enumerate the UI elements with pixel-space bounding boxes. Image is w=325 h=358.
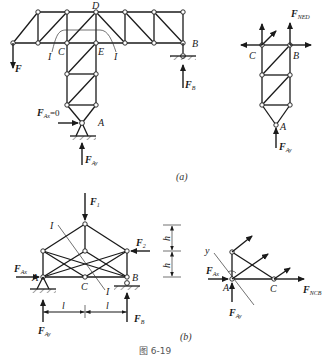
force-label-fncb: FNCB xyxy=(302,284,322,296)
node-label-a-b: A xyxy=(31,272,39,283)
fbd-b-force-label-fay: FAy xyxy=(228,307,242,319)
force-label-fb-b: FB xyxy=(133,313,145,325)
node-label-c: C xyxy=(58,46,65,57)
fbd-a-label-b: B xyxy=(293,50,299,61)
force-label-f2: F2 xyxy=(135,237,146,249)
dim-h-bottom: h xyxy=(161,263,172,268)
force-label-fax: FAx=0 xyxy=(36,107,60,119)
force-label-fay-b: FAy xyxy=(37,325,51,337)
truss-a-nodes xyxy=(11,10,185,107)
dim-l-left: l xyxy=(62,300,65,311)
section-label-top: I xyxy=(49,220,54,231)
force-label-fb: FB xyxy=(184,79,196,91)
fbd-b: y A C FAx FAy FNCB xyxy=(204,236,322,319)
dim-l-right: l xyxy=(106,300,109,311)
section-label-right: I xyxy=(113,51,118,62)
node-label-a: A xyxy=(97,117,105,128)
part-a-label: (a) xyxy=(176,171,188,183)
node-label-c-b: C xyxy=(81,281,88,292)
force-label-fay: FAy xyxy=(84,154,98,166)
force-label-fax-b: FAx xyxy=(13,263,27,275)
axis-label-y: y xyxy=(204,245,210,256)
fbd-b-force-label-fax: FAx xyxy=(205,265,219,277)
fbd-a-label-c: C xyxy=(249,50,256,61)
section-label-left: I xyxy=(47,51,52,62)
node-label-b-b: B xyxy=(132,272,138,283)
figure-caption: 图 6-19 xyxy=(139,346,172,356)
node-label-d: D xyxy=(91,0,100,11)
truss-b: l l h h A B C I I F1 F2 FAx FAy FB (b) xyxy=(13,193,192,343)
fbd-b-label-a: A xyxy=(222,282,230,293)
node-label-b: B xyxy=(192,38,198,49)
force-label-fned: FNED xyxy=(290,8,310,20)
truss-figure: D C E B A I I F FB FAx=0 FAy (a) xyxy=(0,0,325,358)
part-b-label: (b) xyxy=(180,331,192,343)
fbd-a-force-label-fay: FAy xyxy=(278,141,292,153)
node-label-e: E xyxy=(97,46,104,57)
dim-h-top: h xyxy=(161,236,172,241)
fbd-a: C B A FNED FAy xyxy=(241,8,311,153)
section-label-bottom: I xyxy=(105,286,110,297)
force-label-f: F xyxy=(14,63,22,74)
fbd-b-label-c: C xyxy=(270,283,277,294)
force-label-f1: F1 xyxy=(89,196,100,208)
fbd-a-label-a: A xyxy=(279,121,287,132)
truss-a: D C E B A I I F FB FAx=0 FAy (a) xyxy=(11,0,198,183)
